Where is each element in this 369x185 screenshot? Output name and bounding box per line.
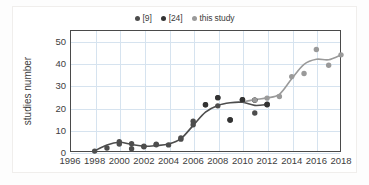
legend-marker-this-study (192, 16, 197, 21)
data-point (117, 141, 122, 146)
legend-label-this-study: this study (200, 13, 235, 23)
data-point (129, 141, 134, 146)
chart-figure: [9] [24] this study studies number 50403… (0, 0, 369, 185)
data-point (277, 94, 282, 99)
legend-item-this-study: this study (192, 13, 235, 23)
data-point (227, 117, 232, 122)
data-point (129, 146, 134, 151)
legend-label-ref24: [24] (169, 13, 183, 23)
plot-wrap (70, 30, 341, 152)
y-tick-label: 20 (40, 102, 66, 113)
y-axis-tick-labels: 50403020100 (40, 30, 66, 152)
data-point (326, 63, 331, 68)
y-tick-label: 50 (40, 36, 66, 47)
legend-marker-ref24 (161, 16, 166, 21)
data-point (215, 95, 220, 100)
data-point (289, 74, 294, 79)
data-point (141, 144, 146, 149)
data-point (338, 52, 343, 57)
y-tick-label: 30 (40, 80, 66, 91)
data-layer (70, 30, 341, 152)
legend-label-ref9: [9] (143, 13, 152, 23)
data-point (252, 110, 257, 115)
legend-marker-ref9 (135, 16, 140, 21)
data-point (154, 142, 159, 147)
y-tick-label: 40 (40, 58, 66, 69)
data-point (166, 142, 171, 147)
data-point (240, 97, 245, 102)
data-point (264, 95, 269, 100)
data-point (190, 118, 195, 123)
x-axis-tick-labels: 1996199820002002200420062008201020122014… (70, 155, 341, 169)
y-tick-label: 10 (40, 124, 66, 135)
data-point (252, 97, 257, 102)
data-point (301, 71, 306, 76)
data-point (215, 103, 220, 108)
data-point (104, 145, 109, 150)
x-tick-label: 2018 (324, 155, 358, 166)
data-point (92, 148, 97, 153)
chart-legend: [9] [24] this study (0, 11, 369, 25)
gridline-horizontal (71, 153, 340, 154)
legend-item-ref24: [24] (161, 13, 183, 23)
data-point (264, 102, 269, 107)
data-point (178, 135, 183, 140)
legend-item-ref9: [9] (135, 13, 152, 23)
data-point (314, 47, 319, 52)
data-point (203, 102, 208, 107)
y-axis-title: studies number (22, 30, 36, 152)
